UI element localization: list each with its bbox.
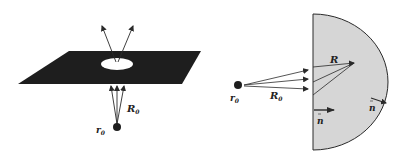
ray-right-mid: [244, 79, 308, 85]
label-R0-right: R0: [269, 90, 283, 102]
label-r0-left: r0: [96, 125, 106, 136]
left-figure: R0 r0: [18, 26, 201, 136]
ray-right-bot: [244, 86, 308, 89]
half-disk-region: [313, 14, 388, 150]
label-n-curved: n: [369, 103, 376, 113]
point-source: [113, 123, 121, 131]
point-source-right: [234, 81, 242, 89]
diagram-canvas: R0 r0 r0 R0 R n n: [0, 0, 401, 161]
aperture-hole: [101, 58, 133, 70]
ray-in-right: [117, 86, 124, 124]
right-figure: r0 R0 R n n: [230, 14, 388, 150]
label-R-inner: R: [329, 54, 338, 65]
label-r0-right: r0: [230, 93, 240, 104]
label-n-flat: n: [317, 116, 324, 126]
ray-in-left: [111, 86, 117, 124]
label-R0-left: R0: [126, 103, 140, 115]
ray-right-top: [244, 70, 308, 85]
